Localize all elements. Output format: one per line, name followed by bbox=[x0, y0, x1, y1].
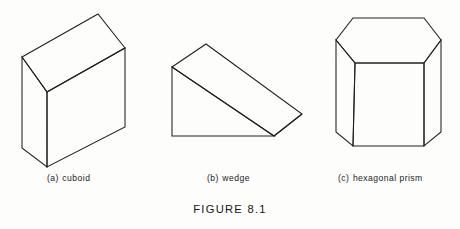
caption-hexagonal-prism-name: hexagonal prism bbox=[353, 173, 423, 183]
shape-cuboid bbox=[22, 14, 125, 167]
figure-drawing-layer bbox=[0, 0, 460, 229]
hexprism-left-side-face bbox=[336, 40, 355, 146]
caption-cuboid: (a)cuboid bbox=[47, 173, 90, 183]
figure-container: (a)cuboid (b)wedge (c)hexagonal prism FI… bbox=[0, 0, 460, 229]
caption-hexagonal-prism-tag: (c) bbox=[338, 173, 349, 183]
wedge-sloping-top-face bbox=[172, 44, 302, 136]
hexprism-top-face bbox=[336, 18, 441, 63]
hexprism-right-side-face bbox=[424, 40, 441, 146]
shape-captions: (a)cuboid (b)wedge (c)hexagonal prism bbox=[0, 173, 460, 189]
caption-wedge-name: wedge bbox=[222, 173, 250, 183]
figure-title: FIGURE 8.1 bbox=[0, 203, 460, 215]
caption-wedge: (b)wedge bbox=[207, 173, 250, 183]
shape-hexagonal-prism bbox=[336, 18, 441, 146]
caption-hexagonal-prism: (c)hexagonal prism bbox=[338, 173, 423, 183]
hexprism-front-face bbox=[353, 63, 424, 146]
wedge-base-back-edge bbox=[274, 114, 302, 136]
cuboid-top-face bbox=[22, 14, 125, 92]
caption-wedge-tag: (b) bbox=[207, 173, 219, 183]
cuboid-left-face bbox=[22, 57, 47, 167]
caption-cuboid-tag: (a) bbox=[47, 173, 59, 183]
caption-cuboid-name: cuboid bbox=[62, 173, 90, 183]
shape-wedge bbox=[172, 44, 302, 136]
cuboid-front-face bbox=[47, 48, 125, 167]
